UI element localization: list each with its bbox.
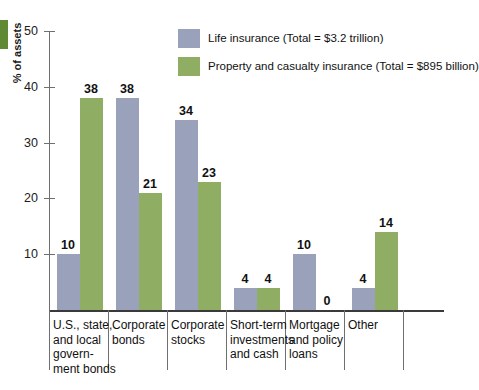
legend-swatch-icon-blue [178,29,200,48]
bar-value-label-blue-4: 10 [291,239,317,251]
bar-group-0: 1038 [49,31,108,310]
bar-blue-4 [293,254,316,310]
bar-blue-1 [116,98,139,310]
y-tick-label-20: 20 [16,192,38,204]
bar-blue-3 [234,288,257,310]
bar-value-label-blue-5: 4 [350,273,376,285]
y-tick-label-10: 10 [16,248,38,260]
bar-blue-5 [352,288,375,310]
category-separator-0 [49,310,50,370]
bar-group-3: 44 [226,31,285,310]
bar-green-0 [80,98,103,310]
bar-value-label-green-1: 21 [137,178,163,190]
category-label-line: and policy [289,333,358,348]
plot-area: 10383821342344100414 [49,31,444,310]
y-tick-label-50: 50 [16,25,38,37]
bar-green-5 [375,232,398,310]
bar-blue-2 [175,120,198,310]
category-label-line: loans [289,347,358,362]
bar-blue-0 [57,254,80,310]
legend-label-life-insurance: Life insurance (Total = $3.2 trillion) [208,32,383,44]
bar-group-5: 414 [344,31,403,310]
legend-swatch-icon-green [178,57,200,76]
y-tick-label-30: 30 [16,137,38,149]
bar-green-1 [139,193,162,310]
bar-value-label-blue-2: 34 [173,105,199,117]
category-label-line: Other [348,318,417,333]
bar-group-1: 3821 [108,31,167,310]
legend-label-property-casualty: Property and casualty insurance (Total =… [208,60,479,72]
bar-green-3 [257,288,280,310]
bar-value-label-green-3: 4 [255,273,281,285]
bar-value-label-blue-0: 10 [55,239,81,251]
edge-color-marker [0,20,8,49]
bar-value-label-blue-1: 38 [114,83,140,95]
bar-value-label-green-0: 38 [78,83,104,95]
bar-green-2 [198,182,221,310]
category-label-line: ment bonds [53,362,122,377]
bar-value-label-green-4: 0 [314,295,340,307]
category-label-line: govern- [53,347,122,362]
bar-value-label-green-2: 23 [196,167,222,179]
category-label-5: Other [348,318,417,333]
bar-value-label-green-5: 14 [373,217,399,229]
y-tick-label-40: 40 [16,81,38,93]
bar-group-4: 100 [285,31,344,310]
